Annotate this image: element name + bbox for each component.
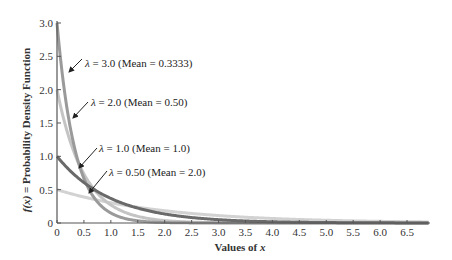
x-tick-label: 0 [54,226,60,238]
annotation-label: λ = 3.0 (Mean = 0.3333) [84,57,193,70]
x-tick-label: 5.5 [346,226,360,238]
y-tick-label: 0 [48,217,54,229]
curves-group [57,23,429,223]
y-tick-label: 1.0 [39,150,53,162]
annotation-label: λ = 1.0 (Mean = 1.0) [98,142,190,155]
y-tick-label: 3.0 [39,17,53,29]
x-tick-label: 3.5 [239,226,253,238]
annotation-lambda-2: λ = 2.0 (Mean = 0.50) [73,96,188,118]
arrow-icon [69,59,82,72]
arrow-icon [73,102,88,118]
x-tick-label: 0.5 [77,226,91,238]
y-tick-label: 2.0 [39,84,53,96]
annotation-lambda-0-5: λ = 0.50 (Mean = 2.0) [89,166,206,193]
y-tick-label: 2.5 [39,50,53,62]
curve-lambda-3 [57,23,429,223]
x-tick-label: 4.5 [292,226,306,238]
x-tick-label: 2.0 [158,226,172,238]
annotation-label: λ = 0.50 (Mean = 2.0) [108,166,206,179]
x-tick-label: 4.0 [266,226,280,238]
x-axis-title: Values of x [215,241,266,253]
x-tick-label: 6.0 [373,226,387,238]
y-ticks: 00.51.01.52.02.53.0 [39,17,61,229]
annotation-lambda-3: λ = 3.0 (Mean = 0.3333) [69,57,193,72]
y-tick-label: 0.5 [39,184,53,196]
arrow-icon [79,148,97,168]
x-tick-label: 2.5 [185,226,199,238]
y-tick-label: 1.5 [39,117,53,129]
x-tick-label: 1.0 [104,226,118,238]
annotation-label: λ = 2.0 (Mean = 0.50) [90,96,188,109]
x-tick-label: 6.5 [400,226,414,238]
y-axis-title: f(x) = Probability Density Function [20,48,33,212]
x-tick-label: 5.0 [319,226,333,238]
annotation-lambda-1: λ = 1.0 (Mean = 1.0) [79,142,190,168]
x-tick-label: 1.5 [131,226,145,238]
exponential-pdf-chart: 00.51.01.52.02.53.03.54.04.55.05.56.06.5… [0,0,452,260]
arrow-icon [89,171,107,193]
x-tick-label: 3.0 [212,226,226,238]
